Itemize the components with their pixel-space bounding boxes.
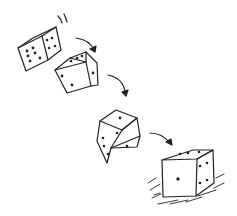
die-4 (162, 150, 214, 197)
dice-rolling-illustration: Hand-drawn sketch of dice rolling (0, 0, 237, 216)
die-3 (97, 110, 140, 163)
die-2 (55, 52, 98, 93)
arrow-3-icon (150, 133, 172, 145)
speed-lines-icon (58, 14, 67, 23)
arrow-1-icon (76, 38, 96, 52)
die-1 (18, 27, 61, 71)
ground-scribble-icon (148, 174, 224, 204)
arrow-2-icon (108, 75, 128, 96)
